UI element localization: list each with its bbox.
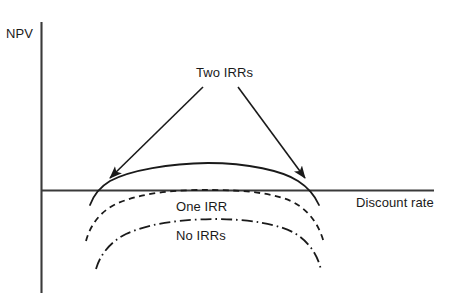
annotation-label-no-irrs: No IRRs bbox=[176, 229, 226, 242]
npv-irr-diagram: NPV Discount rate Two IRRs One IRR No IR… bbox=[0, 0, 461, 307]
curve-no-irrs-path bbox=[96, 219, 321, 270]
diagram-canvas bbox=[0, 0, 461, 307]
x-axis-label: Discount rate bbox=[356, 196, 434, 209]
y-axis-label: NPV bbox=[6, 27, 33, 40]
curve-no-irrs bbox=[96, 219, 321, 270]
arrow-to-right-crossing-icon bbox=[238, 87, 305, 178]
annotation-arrows bbox=[110, 87, 305, 178]
annotation-label-two-irrs: Two IRRs bbox=[196, 66, 253, 79]
axes-group bbox=[41, 22, 434, 293]
annotation-label-one-irr: One IRR bbox=[176, 200, 227, 213]
